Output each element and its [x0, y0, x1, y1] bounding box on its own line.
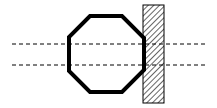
- diagram-canvas: [0, 0, 217, 108]
- hatched-wall: [143, 5, 164, 103]
- octagon: [69, 16, 144, 92]
